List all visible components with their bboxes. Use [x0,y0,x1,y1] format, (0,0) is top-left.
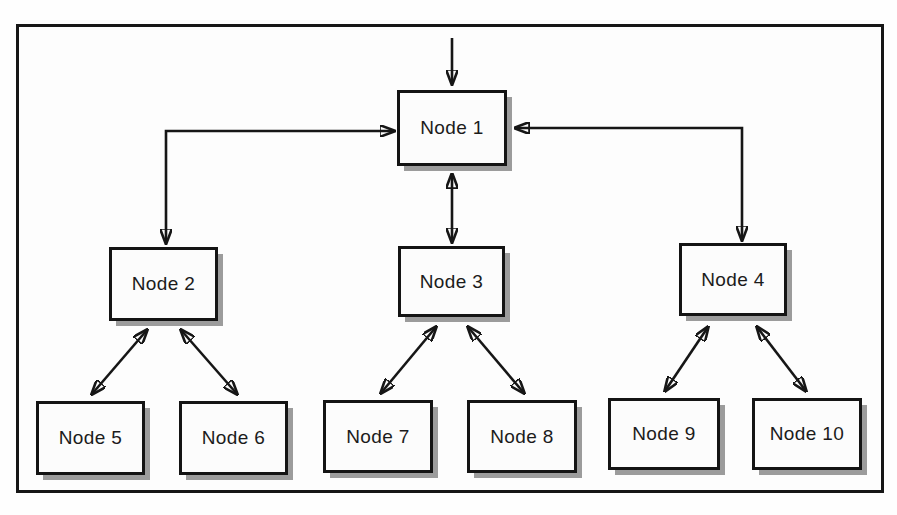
node-5: Node 5 [36,401,145,475]
node-2-label: Node 2 [132,273,196,295]
node-10-label: Node 10 [770,423,845,445]
node-5-label: Node 5 [59,427,123,449]
node-4-label: Node 4 [701,269,765,291]
node-6-label: Node 6 [202,427,266,449]
node-7-label: Node 7 [346,426,410,448]
node-7: Node 7 [323,400,433,473]
node-1: Node 1 [397,90,507,166]
node-3: Node 3 [398,246,505,317]
node-3-label: Node 3 [420,271,484,293]
node-9-label: Node 9 [632,423,696,445]
node-2: Node 2 [109,247,218,321]
node-6: Node 6 [179,401,288,475]
node-1-label: Node 1 [420,117,484,139]
node-8: Node 8 [467,400,577,473]
node-8-label: Node 8 [490,426,554,448]
diagram-canvas: Node 1 Node 2 Node 3 Node 4 Node 5 Node … [0,0,897,515]
node-4: Node 4 [679,243,787,316]
node-9: Node 9 [608,398,720,470]
node-10: Node 10 [752,398,862,470]
